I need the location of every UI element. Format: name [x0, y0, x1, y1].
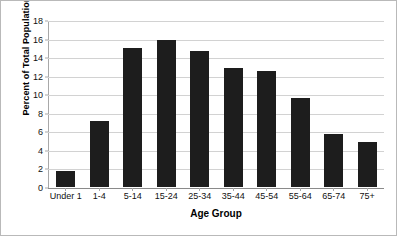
y-tick-label-8: 8 [38, 109, 43, 119]
y-tick-mark-4 [45, 150, 48, 151]
bars-group [49, 21, 384, 187]
bar-25-34 [190, 51, 209, 187]
bar-35-44 [224, 68, 243, 187]
y-tick-label-2: 2 [38, 164, 43, 174]
y-tick-mark-12 [45, 76, 48, 77]
y-tick-mark-2 [45, 169, 48, 170]
y-tick-mark-0 [45, 188, 48, 189]
x-tick-label: 65-74 [317, 191, 351, 201]
x-tick-label: 1-4 [83, 191, 117, 201]
bar-slot [183, 21, 217, 187]
y-tick-mark-16 [45, 39, 48, 40]
x-tick-label: 15-24 [150, 191, 184, 201]
y-tick-label-0: 0 [38, 183, 43, 193]
bar-slot [116, 21, 150, 187]
bar-slot [83, 21, 117, 187]
y-tick-label-16: 16 [33, 35, 43, 45]
x-axis-title: Age Group [48, 208, 384, 219]
y-tick-mark-18 [45, 21, 48, 22]
bar-65-74 [324, 134, 343, 187]
bar-5-14 [123, 48, 142, 187]
bar-slot [250, 21, 284, 187]
x-tick-label: 55-64 [284, 191, 318, 201]
bar-1-4 [90, 121, 109, 187]
bar-55-64 [291, 98, 310, 187]
y-tick-mark-8 [45, 113, 48, 114]
x-tick-label: 35-44 [217, 191, 251, 201]
y-tick-mark-6 [45, 132, 48, 133]
bar-chart-figure: Percent of Total Population 024681012141… [0, 0, 397, 236]
bar-75 [358, 142, 377, 187]
bar-slot [317, 21, 351, 187]
plot-area: 024681012141618 [48, 21, 384, 188]
bar-slot [351, 21, 385, 187]
x-axis-tick-labels: Under 11-45-1415-2425-3435-4445-5455-646… [49, 191, 384, 201]
x-tick-label: Under 1 [49, 191, 83, 201]
bar-45-54 [257, 71, 276, 187]
y-tick-mark-10 [45, 95, 48, 96]
x-tick-label: 75+ [351, 191, 385, 201]
y-tick-label-6: 6 [38, 127, 43, 137]
bar-under-1 [56, 171, 75, 187]
bar-15-24 [157, 40, 176, 187]
bar-slot [49, 21, 83, 187]
bar-slot [150, 21, 184, 187]
x-tick-label: 25-34 [183, 191, 217, 201]
y-axis-title: Percent of Total Population [21, 0, 31, 151]
bar-slot [284, 21, 318, 187]
y-tick-label-12: 12 [33, 72, 43, 82]
x-tick-label: 45-54 [250, 191, 284, 201]
y-tick-label-10: 10 [33, 90, 43, 100]
y-tick-label-4: 4 [38, 146, 43, 156]
y-tick-mark-14 [45, 58, 48, 59]
x-tick-label: 5-14 [116, 191, 150, 201]
y-tick-label-18: 18 [33, 16, 43, 26]
y-tick-label-14: 14 [33, 53, 43, 63]
bar-slot [217, 21, 251, 187]
